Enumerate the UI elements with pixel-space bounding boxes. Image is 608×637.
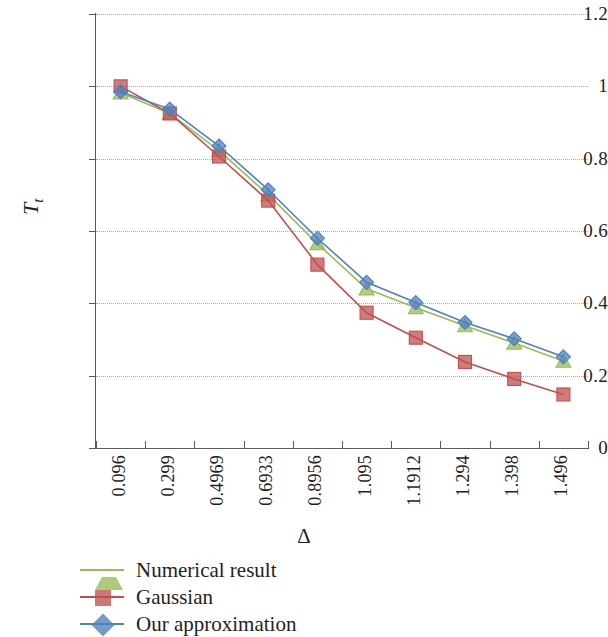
series-marker <box>162 106 177 119</box>
chart-series-numerical-result <box>113 86 571 367</box>
series-marker <box>359 282 374 295</box>
x-axis-title: Δ <box>0 524 608 549</box>
x-axis-tick <box>244 441 245 449</box>
legend-item[interactable]: Our approximation <box>78 610 538 637</box>
x-axis-tick <box>145 441 146 449</box>
series-marker <box>508 372 521 385</box>
series-marker <box>261 183 275 197</box>
y-axis-tick-label: 1 <box>530 76 608 95</box>
series-line <box>121 93 564 361</box>
series-marker <box>360 306 373 319</box>
x-axis-tick-label: 0.299 <box>161 455 175 497</box>
gridline-horizontal <box>96 376 588 378</box>
y-axis-title-subscript: t <box>30 199 46 203</box>
legend-item[interactable]: Gaussian <box>78 583 538 610</box>
x-axis-tick-label: 1.398 <box>505 455 519 497</box>
x-axis-tick <box>293 441 294 449</box>
y-axis-title-text: T <box>18 203 43 215</box>
x-axis-tick-label: 1.294 <box>456 455 470 497</box>
y-axis-tick <box>89 376 96 377</box>
x-axis-tick <box>194 441 195 449</box>
gridline-horizontal <box>96 14 588 16</box>
legend-key-marker <box>95 590 111 606</box>
gridline-horizontal <box>96 303 588 305</box>
series-marker <box>507 332 521 346</box>
x-axis-tick-label: 0.4969 <box>210 455 224 506</box>
legend-key-marker <box>92 613 115 636</box>
series-marker <box>213 150 226 163</box>
x-axis-tick <box>96 441 97 449</box>
gridline-horizontal <box>96 86 588 88</box>
y-axis-tick-label: 0.8 <box>530 149 608 168</box>
series-marker <box>212 144 227 157</box>
x-axis-tick-label: 0.6933 <box>259 455 273 506</box>
chart-series-gaussian <box>114 80 570 401</box>
x-axis-tick-label: 1.1912 <box>407 455 421 506</box>
series-marker <box>507 336 522 349</box>
series-marker <box>310 237 325 250</box>
x-axis-tick <box>342 441 343 449</box>
series-marker <box>310 231 324 245</box>
series-marker <box>163 102 177 116</box>
y-axis-tick <box>89 448 96 449</box>
series-marker <box>163 107 176 120</box>
y-axis-tick-label: 1.2 <box>530 4 608 23</box>
series-marker <box>311 258 324 271</box>
series-line <box>121 92 564 357</box>
y-axis-tick <box>89 159 96 160</box>
y-axis-tick-label: 0.4 <box>530 293 608 312</box>
x-axis-tick <box>440 441 441 449</box>
gridline-horizontal <box>96 159 588 161</box>
series-marker <box>262 194 275 207</box>
legend-marker-square-icon <box>78 586 126 608</box>
legend-item-label: Our approximation <box>126 612 296 636</box>
gridline-horizontal <box>96 231 588 233</box>
legend-item[interactable]: Numerical result <box>78 556 538 583</box>
legend-marker-triangle-icon <box>78 559 126 581</box>
series-marker <box>409 331 422 344</box>
x-axis-tick <box>391 441 392 449</box>
y-axis-tick <box>89 303 96 304</box>
series-marker <box>261 188 276 201</box>
legend-marker-diamond-icon <box>78 613 126 635</box>
chart-legend: Numerical resultGaussianOur approximatio… <box>78 556 538 637</box>
x-axis-tick <box>539 441 540 449</box>
y-axis-tick <box>89 14 96 15</box>
legend-item-label: Gaussian <box>126 585 213 609</box>
series-line <box>121 86 564 394</box>
legend-item-label: Numerical result <box>126 558 277 582</box>
series-marker <box>458 316 472 330</box>
x-axis-tick-label: 0.096 <box>112 455 126 497</box>
y-axis-tick-label: 0.2 <box>530 366 608 385</box>
chart-series-our-approximation <box>114 85 571 364</box>
x-axis-tick <box>588 441 589 449</box>
y-axis-tick-label: 0.6 <box>530 221 608 240</box>
x-axis-tick <box>490 441 491 449</box>
series-marker <box>212 139 226 153</box>
x-axis-tick-label: 0.8956 <box>308 455 322 506</box>
y-axis-tick <box>89 86 96 87</box>
y-axis-tick <box>89 231 96 232</box>
series-marker <box>458 319 473 332</box>
x-axis-tick-label: 1.496 <box>554 455 568 497</box>
series-marker <box>360 275 374 289</box>
y-axis-title: Tt <box>18 199 47 215</box>
series-marker <box>557 388 570 401</box>
series-marker <box>556 350 570 364</box>
series-marker <box>459 355 472 368</box>
x-axis-tick-label: 1.095 <box>358 455 372 497</box>
